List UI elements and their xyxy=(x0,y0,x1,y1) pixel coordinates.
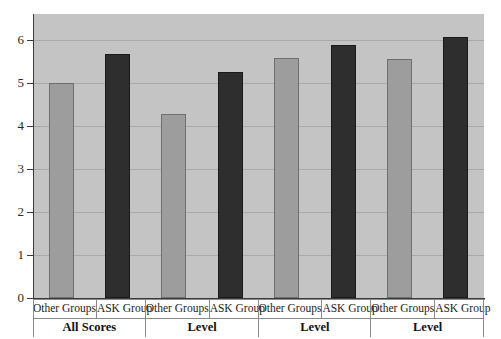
bar xyxy=(105,54,130,298)
category-label-table: Other GroupsASK GroupAll ScoresOther Gro… xyxy=(33,299,485,337)
gridline-4 xyxy=(33,126,484,127)
y-tick-label-0: 0 xyxy=(0,291,24,304)
bar xyxy=(274,58,299,298)
y-tick-mark-6 xyxy=(27,40,34,41)
gridline-6 xyxy=(33,40,484,41)
category-group-label: Level xyxy=(371,318,484,337)
y-tick-mark-3 xyxy=(27,169,34,170)
bar xyxy=(443,37,468,298)
category-mid-rule xyxy=(371,318,484,319)
y-tick-label-4: 4 xyxy=(0,119,24,132)
y-tick-label-3: 3 xyxy=(0,162,24,175)
category-sub-label: Other Groups xyxy=(371,299,435,318)
bar xyxy=(49,83,74,298)
bar-chart: 0123456 Other GroupsASK GroupAll ScoresO… xyxy=(0,0,501,339)
gridline-2 xyxy=(33,212,484,213)
plot-area xyxy=(33,14,484,298)
category-mid-rule xyxy=(33,318,146,319)
category-subrow: Other GroupsASK Group xyxy=(259,299,372,318)
category-subrow: Other GroupsASK Group xyxy=(146,299,259,318)
gridline-1 xyxy=(33,255,484,256)
gridline-5 xyxy=(33,83,484,84)
y-tick-label-2: 2 xyxy=(0,205,24,218)
category-mid-rule xyxy=(259,318,372,319)
category-group-label: Level xyxy=(259,318,372,337)
category-sub-label: Other Groups xyxy=(259,299,323,318)
category-sub-label: Other Groups xyxy=(146,299,210,318)
y-tick-mark-5 xyxy=(27,83,34,84)
bar xyxy=(331,45,356,298)
category-sub-label: Other Groups xyxy=(33,299,97,318)
y-tick-mark-4 xyxy=(27,126,34,127)
category-subrow: Other GroupsASK Group xyxy=(371,299,484,318)
category-left-border xyxy=(33,299,34,337)
bar xyxy=(218,72,243,298)
bar xyxy=(161,114,186,298)
category-group-label: Level xyxy=(146,318,259,337)
y-tick-mark-1 xyxy=(27,255,34,256)
y-axis-line xyxy=(33,14,34,299)
gridline-3 xyxy=(33,169,484,170)
category-subrow: Other GroupsASK Group xyxy=(33,299,146,318)
y-tick-label-5: 5 xyxy=(0,76,24,89)
category-mid-rule xyxy=(146,318,259,319)
category-group-label: All Scores xyxy=(33,318,146,337)
y-tick-label-6: 6 xyxy=(0,33,24,46)
bar xyxy=(387,59,412,298)
y-tick-mark-2 xyxy=(27,212,34,213)
y-tick-label-1: 1 xyxy=(0,248,24,261)
